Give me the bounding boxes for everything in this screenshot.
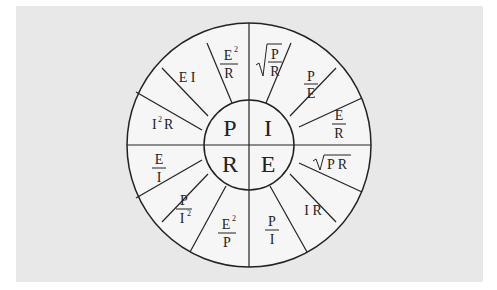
svg-text:E: E [155, 152, 164, 167]
svg-text:I: I [270, 232, 275, 247]
svg-text:I: I [180, 211, 185, 226]
svg-text:P: P [223, 235, 231, 250]
svg-text:2: 2 [187, 209, 191, 218]
svg-text:E: E [307, 86, 316, 101]
center-letter-r: R [222, 151, 238, 177]
svg-text:I: I [157, 170, 162, 185]
svg-text:R: R [270, 64, 280, 79]
svg-text:E: E [224, 48, 233, 63]
svg-text:2: 2 [158, 115, 162, 124]
svg-text:P R: P R [327, 157, 348, 172]
svg-text:R: R [334, 126, 344, 141]
svg-text:P: P [271, 47, 279, 62]
svg-text:2: 2 [232, 214, 236, 223]
formula-ir: I R [304, 203, 322, 218]
svg-text:E: E [222, 217, 231, 232]
center-letter-e: E [261, 151, 276, 177]
svg-text:I: I [152, 117, 157, 132]
center-letter-i: I [264, 115, 272, 141]
svg-text:P: P [180, 193, 188, 208]
svg-text:R: R [224, 66, 234, 81]
center-letter-p: P [223, 115, 236, 141]
svg-text:E: E [335, 108, 344, 123]
svg-text:2: 2 [234, 45, 238, 54]
svg-text:R: R [164, 117, 174, 132]
svg-text:P: P [268, 214, 276, 229]
formula-ei: E I [179, 70, 196, 85]
svg-text:P: P [307, 69, 315, 84]
pire-wheel: P I R E E 2 R E I I 2 R P R P E E R P R … [0, 0, 497, 290]
